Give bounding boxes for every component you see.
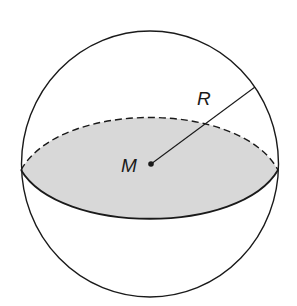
- center-label: M: [121, 155, 137, 176]
- section-fill: [21, 118, 278, 219]
- radius-label: R: [197, 88, 211, 109]
- center-point: [148, 161, 154, 167]
- sphere-diagram: M R: [0, 0, 297, 306]
